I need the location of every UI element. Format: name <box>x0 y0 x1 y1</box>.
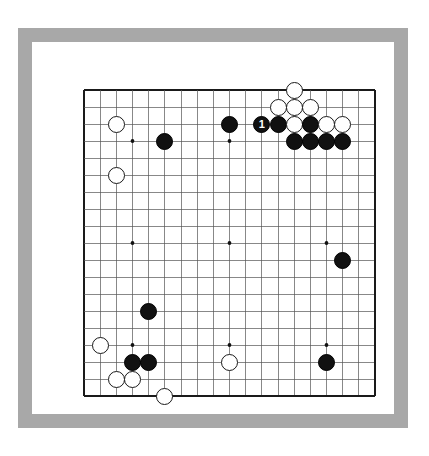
go-stone-white[interactable] <box>286 99 303 116</box>
go-stone-black[interactable] <box>124 354 141 371</box>
star-point <box>228 139 232 143</box>
go-stone-white[interactable] <box>108 116 125 133</box>
star-point <box>131 241 135 245</box>
go-stone-black[interactable] <box>286 133 303 150</box>
board-paper-mat: 1 <box>32 42 394 414</box>
move-number-label: 1 <box>254 117 269 132</box>
page-root: 1 <box>0 0 429 456</box>
go-stone-white[interactable] <box>156 388 173 405</box>
go-stone-black[interactable]: 1 <box>253 116 270 133</box>
go-stone-black[interactable] <box>318 133 335 150</box>
go-stone-black[interactable] <box>302 133 319 150</box>
go-stone-black[interactable] <box>221 116 238 133</box>
go-stone-white[interactable] <box>302 99 319 116</box>
go-stone-black[interactable] <box>334 252 351 269</box>
go-stone-black[interactable] <box>140 303 157 320</box>
go-stone-black[interactable] <box>140 354 157 371</box>
star-point <box>131 343 135 347</box>
go-stone-white[interactable] <box>124 371 141 388</box>
star-point <box>228 343 232 347</box>
go-stone-white[interactable] <box>318 116 335 133</box>
star-point <box>325 343 329 347</box>
go-stone-white[interactable] <box>286 116 303 133</box>
go-board[interactable]: 1 <box>75 81 384 405</box>
go-stone-white[interactable] <box>108 167 125 184</box>
go-stone-white[interactable] <box>221 354 238 371</box>
go-stone-black[interactable] <box>302 116 319 133</box>
go-stone-white[interactable] <box>334 116 351 133</box>
go-stone-white[interactable] <box>270 99 287 116</box>
go-stone-black[interactable] <box>334 133 351 150</box>
go-stone-black[interactable] <box>270 116 287 133</box>
star-point <box>325 241 329 245</box>
board-outer-frame: 1 <box>18 28 408 428</box>
go-stone-black[interactable] <box>156 133 173 150</box>
go-stone-white[interactable] <box>108 371 125 388</box>
go-stone-white[interactable] <box>92 337 109 354</box>
go-stone-white[interactable] <box>286 82 303 99</box>
star-point <box>228 241 232 245</box>
star-point <box>131 139 135 143</box>
go-stone-black[interactable] <box>318 354 335 371</box>
